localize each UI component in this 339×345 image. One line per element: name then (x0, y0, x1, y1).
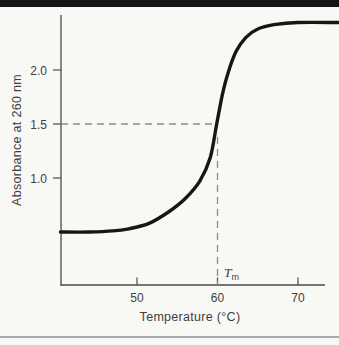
x-axis-title: Temperature (°C) (140, 310, 241, 324)
melting-curve-chart: 2.0 1.5 1.0 50 60 70 Absorbance at 260 n… (0, 0, 339, 345)
bottom-border-rule (0, 336, 339, 338)
y-tick-label-2_0: 2.0 (30, 64, 47, 78)
y-axis-title: Absorbance at 260 nm (10, 74, 24, 206)
tm-label: Tm (224, 265, 239, 282)
tm-label-subscript: m (232, 272, 240, 282)
x-axis: 50 60 70 (60, 278, 325, 306)
figure-page: 2.0 1.5 1.0 50 60 70 Absorbance at 260 n… (0, 0, 339, 345)
y-tick-label-1_5: 1.5 (30, 118, 47, 132)
melting-curve (61, 22, 339, 232)
y-tick-label-1_0: 1.0 (30, 172, 47, 186)
x-tick-label-70: 70 (291, 291, 305, 305)
x-tick-label-50: 50 (130, 291, 144, 305)
x-tick-label-60: 60 (211, 291, 225, 305)
y-axis: 2.0 1.5 1.0 (30, 15, 61, 286)
